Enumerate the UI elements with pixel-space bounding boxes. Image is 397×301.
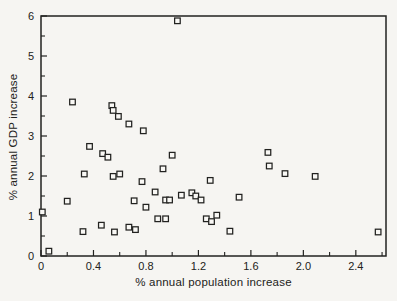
data-point-marker [81,171,87,177]
data-point-marker [207,178,213,184]
data-point-marker [375,229,381,235]
data-point-marker [179,192,185,198]
x-tick-label: 0.8 [138,260,153,272]
scatter-chart-canvas: 00.40.81.21.62.02.40123456 [0,0,397,301]
data-point-marker [265,150,271,156]
data-point-marker [312,174,318,180]
y-tick-label: 1 [28,210,34,222]
data-point-marker [175,18,181,24]
data-point-marker [155,216,161,222]
x-tick-label: 2.4 [348,260,363,272]
data-point-marker [110,174,116,180]
data-point-marker [266,163,272,169]
data-point-marker [160,166,166,172]
y-tick-label: 6 [28,10,34,22]
data-point-marker [141,128,147,134]
data-point-marker [131,198,137,204]
data-point-marker [116,114,122,120]
y-tick-label: 0 [28,250,34,262]
data-point-marker [214,212,220,218]
data-point-marker [40,209,46,215]
data-point-marker [143,204,149,210]
data-point-marker [133,227,139,233]
data-point-marker [46,248,52,254]
x-axis-label: % annual population increase [41,276,386,288]
data-point-marker [105,154,111,160]
data-point-marker [126,224,132,230]
data-point-marker [282,171,288,177]
x-tick-label: 1.2 [191,260,206,272]
data-point-marker [139,179,145,185]
data-point-marker [117,171,123,177]
data-point-marker [198,197,204,203]
data-point-marker [87,144,93,150]
x-tick-label: 2.0 [296,260,311,272]
x-tick-label: 0.4 [86,260,101,272]
data-point-marker [70,99,76,105]
data-point-marker [209,219,215,225]
scatter-plot-figure: 00.40.81.21.62.02.40123456 % annual GDP … [0,0,397,301]
x-tick-label: 1.6 [243,260,258,272]
data-point-marker [110,108,116,114]
data-point-marker [169,152,175,158]
x-tick-label: 0 [38,260,44,272]
data-point-marker [99,222,105,228]
data-point-marker [64,198,70,204]
data-point-marker [80,229,86,235]
y-axis-label: % annual GDP increase [7,74,19,201]
y-tick-label: 4 [28,90,34,102]
data-point-marker [112,229,118,235]
y-tick-label: 2 [28,170,34,182]
y-tick-label: 5 [28,50,34,62]
data-point-marker [227,228,233,234]
data-point-marker [167,197,173,203]
data-point-marker [152,189,158,195]
data-point-marker [126,121,132,127]
data-point-marker [236,194,242,200]
data-point-marker [163,216,169,222]
y-tick-label: 3 [28,130,34,142]
